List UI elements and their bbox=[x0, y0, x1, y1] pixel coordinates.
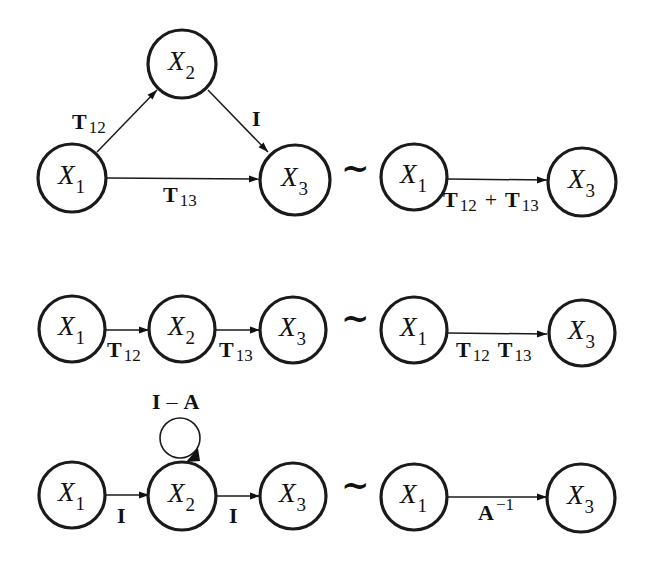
edge-label-t12: T12 bbox=[107, 337, 141, 365]
node-x3: X3 bbox=[260, 145, 330, 215]
node-x1: X1 bbox=[381, 144, 447, 210]
node-x1: X1 bbox=[381, 464, 447, 530]
edge-label-t12-t13: T12T13 bbox=[456, 337, 531, 365]
edge-x1-x3 bbox=[448, 179, 547, 180]
node-x3: X3 bbox=[548, 148, 616, 216]
node-x2: X2 bbox=[148, 30, 216, 98]
node-x3: X3 bbox=[260, 463, 326, 529]
edge-label-i: I bbox=[252, 106, 261, 131]
self-loop-label: I–A bbox=[152, 389, 200, 414]
edge-label-i-1: I bbox=[117, 503, 126, 528]
self-loop-arrowhead-icon bbox=[186, 448, 200, 462]
edge-label-t13: T13 bbox=[163, 182, 197, 210]
edge-x1-x2 bbox=[97, 90, 157, 152]
node-x3: X3 bbox=[549, 300, 615, 366]
row-series-left-graph: X1 X2 X3 T12 T13 bbox=[39, 296, 326, 365]
self-loop-x2 bbox=[160, 418, 200, 462]
edge-x1-x3 bbox=[448, 333, 547, 334]
node-x1: X1 bbox=[39, 462, 105, 528]
node-x3: X3 bbox=[260, 297, 326, 363]
edge-label-i-2: I bbox=[229, 503, 238, 528]
row-series: X1 X2 X3 T12 T13 ~ X1 X3 T1 bbox=[39, 296, 615, 366]
node-x3: X3 bbox=[547, 464, 615, 532]
node-x1: X1 bbox=[39, 296, 105, 362]
edge-label-t13: T13 bbox=[219, 337, 253, 365]
node-x1: X1 bbox=[38, 144, 106, 212]
edge-label-t12-plus-t13: T12+T13 bbox=[443, 187, 539, 215]
row-feedback-left-graph: X1 X2 X3 I–A I I bbox=[39, 389, 326, 530]
row-feedback-loop: X1 X2 X3 I–A I I ~ X1 X3 bbox=[39, 389, 615, 532]
equivalence-symbol: ~ bbox=[341, 465, 370, 505]
edge-label-a-inverse: A−1 bbox=[478, 495, 514, 525]
row-series-right-graph: X1 X3 T12T13 bbox=[381, 297, 615, 366]
node-x2: X2 bbox=[148, 462, 216, 530]
signal-flow-diagram: X1 X2 X3 T12 I T13 ~ X1 X3 bbox=[0, 0, 652, 564]
row-parallel-right-graph: X1 X3 T12+T13 bbox=[381, 144, 616, 216]
row-parallel: X1 X2 X3 T12 I T13 ~ X1 X3 bbox=[38, 30, 616, 216]
edge-label-t12: T12 bbox=[72, 109, 106, 137]
row-feedback-right-graph: X1 X3 A−1 bbox=[381, 464, 615, 532]
equivalence-symbol: ~ bbox=[341, 298, 370, 338]
node-x1: X1 bbox=[381, 297, 447, 363]
row-parallel-left-graph: X1 X2 X3 T12 I T13 bbox=[38, 30, 330, 215]
edge-x1-x3 bbox=[107, 178, 259, 179]
equivalence-symbol: ~ bbox=[341, 148, 370, 188]
node-x2: X2 bbox=[149, 296, 215, 362]
